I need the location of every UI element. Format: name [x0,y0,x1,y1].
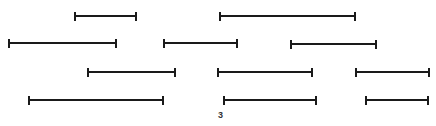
right-endcap [375,40,377,49]
left-endcap [355,68,357,77]
line-segment [8,39,117,48]
line-segments-figure [0,0,436,126]
segment-bar [87,71,176,73]
left-endcap [217,68,219,77]
line-segment [219,12,356,21]
left-endcap [223,96,225,105]
right-endcap [162,96,164,105]
right-endcap [135,12,137,21]
segment-bar [219,15,356,17]
segment-bar [8,42,117,44]
segment-bar [74,15,137,17]
left-endcap [163,39,165,48]
left-endcap [74,12,76,21]
segment-bar [355,71,430,73]
line-segment [217,68,313,77]
right-endcap [311,68,313,77]
left-endcap [8,39,10,48]
segment-bar [365,99,429,101]
line-segment [87,68,176,77]
segment-bar [217,71,313,73]
line-segment [223,96,317,105]
segment-bar [290,43,377,45]
line-segment [163,39,238,48]
left-endcap [290,40,292,49]
segment-bar [223,99,317,101]
right-endcap [354,12,356,21]
line-segment [290,40,377,49]
figure-label: 3 [218,110,223,120]
right-endcap [115,39,117,48]
line-segment [28,96,164,105]
line-segment [365,96,429,105]
left-endcap [219,12,221,21]
segment-bar [163,42,238,44]
left-endcap [365,96,367,105]
segment-bar [28,99,164,101]
line-segment [355,68,430,77]
right-endcap [427,96,429,105]
right-endcap [315,96,317,105]
left-endcap [87,68,89,77]
line-segment [74,12,137,21]
right-endcap [236,39,238,48]
right-endcap [428,68,430,77]
left-endcap [28,96,30,105]
right-endcap [174,68,176,77]
